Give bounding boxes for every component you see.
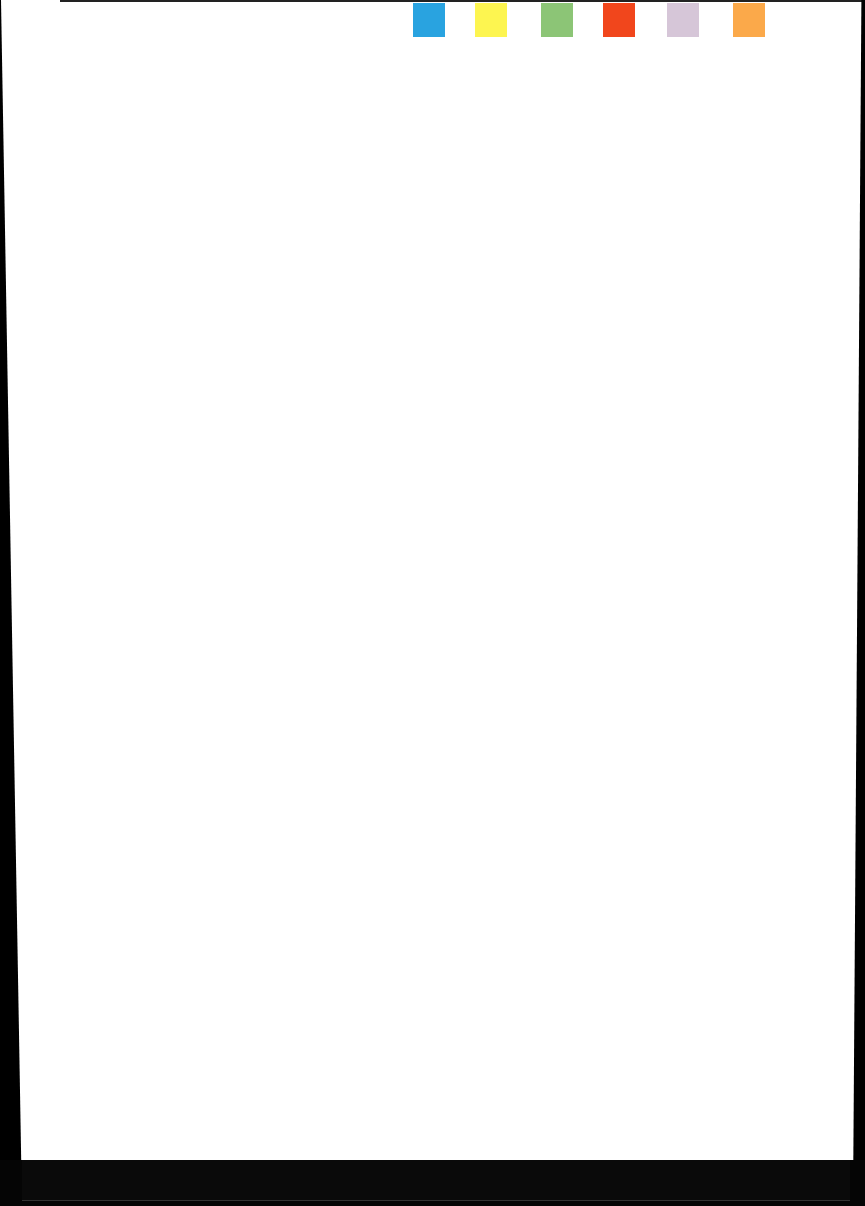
color-tab-yellow xyxy=(475,3,507,37)
page-top-edge xyxy=(60,0,865,2)
color-tab-red xyxy=(603,3,635,37)
color-tab-blue xyxy=(413,3,445,37)
scan-border-bottom-inner xyxy=(22,1160,850,1201)
scan-border-right xyxy=(853,0,865,1206)
color-tab-lavender xyxy=(667,3,699,37)
color-tab-orange xyxy=(733,3,765,37)
color-tab-green xyxy=(541,3,573,37)
scanned-page xyxy=(0,0,865,1206)
scan-border-left xyxy=(0,0,24,1206)
